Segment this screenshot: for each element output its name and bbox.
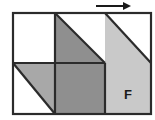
top-left-cell-fill — [13, 13, 55, 63]
region-label-f: F — [124, 87, 132, 102]
bottom-middle-cell-fill — [55, 63, 105, 114]
figure-canvas: F — [0, 0, 155, 120]
geometric-figure: F — [0, 0, 155, 120]
